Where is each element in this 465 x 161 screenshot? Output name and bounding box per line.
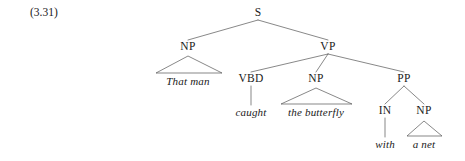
terminal-with: with [375,139,395,150]
tree-branches [0,0,465,161]
branch-pp-to-in [385,86,404,104]
terminal-a-net: a net [413,139,436,150]
node-in: IN [379,105,392,117]
syntax-tree-figure: (3.31) S NP VP That man VBD NP PP caught… [0,0,465,161]
node-np-subject: NP [180,41,195,53]
node-vbd: VBD [238,73,263,85]
node-pp: PP [397,73,410,85]
node-vp: VP [320,41,335,53]
node-s: S [255,7,262,19]
terminal-the-butterfly: the butterfly [288,107,344,118]
triangle-np_object-to-the_butterfly [281,88,352,104]
branch-s-to-np_subject [188,20,258,40]
terminal-caught: caught [235,107,266,118]
branch-s-to-vp [258,20,328,40]
triangle-np_object_pp-to-a_net [407,121,442,136]
terminal-that-man: That man [166,76,209,87]
triangle-np_subject-to-that_man [156,56,222,73]
branch-vp-to-vbd [251,54,328,72]
node-np-object: NP [308,73,323,85]
branch-vp-to-pp [328,54,404,72]
node-np-object-pp: NP [416,105,431,117]
branch-pp-to-np_object_pp [404,86,424,104]
